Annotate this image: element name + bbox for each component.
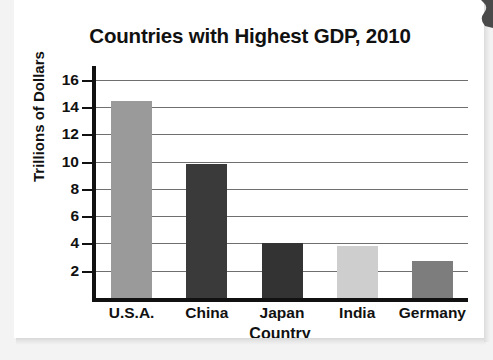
bar-usa: [111, 101, 152, 298]
x-axis-tick-label: India: [339, 304, 375, 322]
bar-japan: [262, 243, 303, 298]
bar-india: [337, 246, 378, 298]
page-shadow-right: [484, 2, 490, 342]
y-axis-tick: [82, 243, 92, 245]
y-axis-tick-label: 14: [62, 98, 79, 116]
y-axis-tick-label: 4: [70, 234, 79, 252]
x-axis-tick-label: U.S.A.: [109, 304, 155, 322]
y-axis-tick-label: 12: [62, 125, 79, 143]
chart-title: Countries with Highest GDP, 2010: [14, 24, 486, 48]
y-axis-tick: [82, 189, 92, 191]
x-axis-tick-label: Japan: [260, 304, 305, 322]
y-axis-tick-label: 10: [62, 153, 79, 171]
y-axis-tick: [82, 216, 92, 218]
y-axis-tick: [82, 134, 92, 136]
y-axis-tick: [82, 271, 92, 273]
y-axis-tick: [82, 80, 92, 82]
bar-china: [186, 164, 227, 298]
y-axis-tick-label: 2: [70, 262, 79, 280]
page-shadow: [16, 338, 486, 345]
page-curl-artifact: [459, 0, 493, 28]
plot-area: 246810121416 U.S.A.ChinaJapanIndiaGerman…: [92, 66, 468, 302]
y-axis-tick: [82, 107, 92, 109]
bar-germany: [412, 261, 453, 298]
x-axis-tick-label: China: [185, 304, 228, 322]
x-axis-line: [92, 298, 468, 302]
scanned-page: Countries with Highest GDP, 2010 Trillio…: [14, 0, 486, 338]
x-axis-tick-label: Germany: [399, 304, 466, 322]
y-axis-tick: [82, 162, 92, 164]
gridline: [96, 80, 468, 81]
screenshot-canvas: Countries with Highest GDP, 2010 Trillio…: [0, 0, 493, 360]
y-axis-line: [92, 66, 96, 302]
y-axis-tick-label: 16: [62, 71, 79, 89]
y-axis-title: Trillions of Dollars: [30, 51, 47, 182]
y-axis-tick-label: 8: [70, 180, 79, 198]
y-axis-tick-label: 6: [70, 207, 79, 225]
